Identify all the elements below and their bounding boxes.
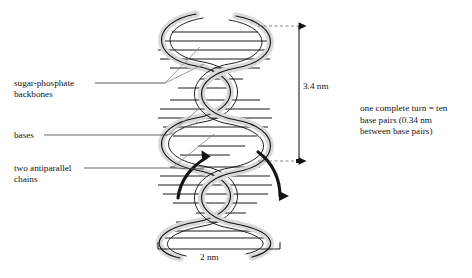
diagram-canvas xyxy=(0,0,472,278)
dna-double-helix-diagram: sugar-phosphate backbones bases two anti… xyxy=(0,0,472,278)
label-bases: bases xyxy=(14,130,34,141)
label-sugar-phosphate-backbones: sugar-phosphate backbones xyxy=(14,78,74,100)
width-dimension xyxy=(158,242,280,249)
height-dimension xyxy=(258,26,301,163)
label-turn-note: one complete turn = ten base pairs (0.34… xyxy=(360,103,470,138)
label-helix-height: 3.4 nm xyxy=(303,81,329,92)
label-two-antiparallel-chains: two antiparallel chains xyxy=(14,163,71,185)
label-helix-width: 2 nm xyxy=(200,252,219,263)
